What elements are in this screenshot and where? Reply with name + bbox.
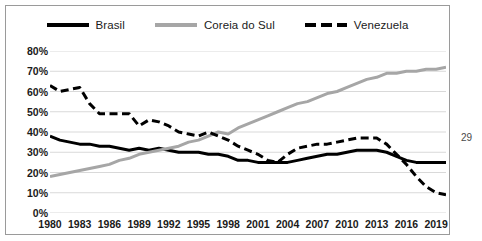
x-tick-label: 2016: [395, 218, 418, 230]
x-tick-label: 1980: [38, 218, 61, 230]
legend-swatch-gray-line-icon: [155, 23, 197, 27]
legend-swatch-solid-line-icon: [47, 23, 89, 27]
y-tick-label: 20%: [12, 168, 48, 178]
x-tick-label: 2004: [276, 218, 299, 230]
legend-item-coreia-do-sul: Coreia do Sul: [155, 19, 275, 31]
plot-svg: [50, 51, 446, 213]
y-tick-label: 40%: [12, 127, 48, 137]
x-tick-label: 2010: [335, 218, 358, 230]
x-tick-label: 1992: [157, 218, 180, 230]
y-axis-tick-labels: 80%70%60%50%40%30%20%10%0%: [10, 51, 48, 213]
y-tick-label: 80%: [12, 46, 48, 56]
legend-label-coreia-do-sul: Coreia do Sul: [204, 19, 275, 31]
series-line-venezuela: [50, 85, 446, 194]
series-lines: [50, 67, 446, 195]
x-tick-label: 1986: [98, 218, 121, 230]
y-tick-label: 70%: [12, 66, 48, 76]
plot-area: [50, 51, 446, 213]
chart-frame: Brasil Coreia do Sul Venezuela 80%70%60%…: [5, 5, 450, 235]
y-tick-label: 10%: [12, 188, 48, 198]
x-tick-label: 1983: [68, 218, 91, 230]
y-tick-label: 30%: [12, 147, 48, 157]
y-tick-label: 0%: [12, 208, 48, 218]
x-tick-label: 2001: [246, 218, 269, 230]
x-tick-label: 1995: [187, 218, 210, 230]
x-axis-tick-labels: 1980198319861989199219951998200120042007…: [50, 218, 446, 236]
legend-item-venezuela: Venezuela: [305, 19, 409, 31]
y-tick-label: 50%: [12, 107, 48, 117]
legend-label-venezuela: Venezuela: [354, 19, 409, 31]
chart-page: Brasil Coreia do Sul Venezuela 80%70%60%…: [0, 0, 482, 241]
x-tick-label: 1989: [127, 218, 150, 230]
legend-label-brasil: Brasil: [96, 19, 125, 31]
y-tick-label: 60%: [12, 87, 48, 97]
page-number: 29: [461, 132, 472, 143]
x-tick-label: 2019: [424, 218, 447, 230]
chart-legend: Brasil Coreia do Sul Venezuela: [6, 14, 449, 36]
legend-item-brasil: Brasil: [47, 19, 125, 31]
x-tick-label: 2013: [365, 218, 388, 230]
x-tick-label: 1998: [217, 218, 240, 230]
gridlines: [50, 51, 446, 213]
legend-swatch-dashed-line-icon: [305, 23, 347, 27]
x-tick-label: 2007: [306, 218, 329, 230]
